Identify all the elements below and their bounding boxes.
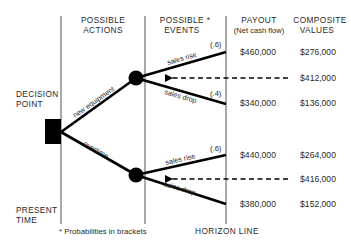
present-time-label-line2: TIME — [16, 215, 37, 225]
decision-point-label-line2: POINT — [16, 99, 43, 109]
action-edge-new-equipment — [61, 78, 136, 132]
header-events-line1: POSSIBLE * — [160, 15, 211, 25]
expected-value-new-equipment: $412,000 — [300, 73, 336, 83]
horizon-line-label: HORIZON LINE — [195, 226, 259, 236]
probability-ot-sales-rise: (.6) — [210, 144, 222, 153]
decision-node-square — [45, 119, 61, 144]
decision-point-label-line1: DECISION — [16, 89, 59, 99]
probability-ne-sales-rise: (.6) — [210, 40, 222, 49]
action-label-overtime: overtime — [82, 139, 110, 161]
header-payout-line1: PAYOUT — [241, 15, 276, 25]
composite-ot-sales-rise: $264,000 — [300, 150, 336, 160]
payout-ne-sales-rise: $460,000 — [240, 47, 276, 57]
expected-value-overtime: $416,000 — [300, 174, 336, 184]
header-events-line2: EVENTS — [164, 25, 200, 35]
decision-tree-diagram: POSSIBLE ACTIONS POSSIBLE * EVENTS PAYOU… — [0, 0, 351, 245]
composite-ot-sales-drop: $152,000 — [300, 199, 336, 209]
footnote-probabilities: * Probabilities in brackets — [59, 227, 147, 236]
header-composite-line2: VALUES — [300, 25, 335, 35]
payout-ot-sales-drop: $380,000 — [240, 199, 276, 209]
composite-ne-sales-drop: $136,000 — [300, 98, 336, 108]
composite-ne-sales-rise: $276,000 — [300, 47, 336, 57]
present-time-label-line1: PRESENT — [16, 205, 57, 215]
header-payout-line2: (Net cash flow) — [234, 26, 285, 35]
action-label-new-equipment: new equipment — [71, 84, 116, 119]
header-composite-line1: COMPOSITE — [293, 15, 346, 25]
header-actions-line1: POSSIBLE — [81, 15, 125, 25]
header-actions-line2: ACTIONS — [83, 25, 123, 35]
payout-ne-sales-drop: $340,000 — [240, 98, 276, 108]
event-label-ot-sales-drop: sales drop — [162, 179, 196, 197]
payout-ot-sales-rise: $440,000 — [240, 150, 276, 160]
probability-ne-sales-drop: (.4) — [210, 89, 222, 98]
